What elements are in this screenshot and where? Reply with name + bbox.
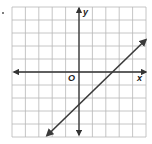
coordinate-plane: y x O xyxy=(0,0,152,144)
origin-label: O xyxy=(68,73,75,83)
x-axis-label: x xyxy=(136,73,143,83)
y-axis-label: y xyxy=(82,7,89,17)
plotted-line xyxy=(47,40,146,136)
